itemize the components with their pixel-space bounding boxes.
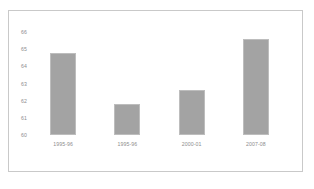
y-axis-tick-label: 63 [21, 81, 27, 87]
chart-frame: 66656463626160 1995-961995-962000-012007… [8, 10, 303, 172]
bar [179, 90, 205, 135]
y-axis-tick-label: 60 [21, 132, 27, 138]
x-axis-tick-label: 2000-01 [182, 141, 202, 147]
bar [243, 39, 269, 135]
x-axis-tick-label: 1995-96 [118, 141, 138, 147]
bar [50, 53, 76, 135]
y-axis-tick-label: 64 [21, 63, 27, 69]
y-axis-tick-label: 61 [21, 115, 27, 121]
y-axis-tick-label: 66 [21, 29, 27, 35]
y-axis-tick-label: 65 [21, 46, 27, 52]
plot-area: 66656463626160 1995-961995-962000-012007… [31, 32, 288, 135]
x-axis-tick-label: 1995-96 [53, 141, 73, 147]
x-axis-tick-label: 2007-08 [246, 141, 266, 147]
bar [114, 104, 140, 135]
y-axis-tick-label: 62 [21, 98, 27, 104]
